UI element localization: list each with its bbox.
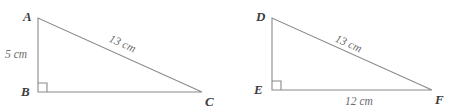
- vertex-label-f: F: [435, 93, 444, 106]
- triangle-def-outline: [272, 18, 432, 90]
- geometry-figure: A B C 5 cm 13 cm D E F 13 cm 12 cm: [0, 0, 463, 111]
- measure-leg-ab: 5 cm: [5, 49, 27, 61]
- triangle-abc-shape: [38, 18, 202, 92]
- triangles-svg: [0, 0, 463, 111]
- vertex-label-c: C: [205, 95, 214, 108]
- measure-leg-ef: 12 cm: [345, 96, 373, 108]
- right-angle-marker-e: [272, 81, 281, 90]
- vertex-label-a: A: [23, 10, 32, 23]
- triangle-abc-outline: [38, 18, 202, 92]
- triangle-def-shape: [272, 18, 432, 90]
- vertex-label-b: B: [21, 85, 30, 98]
- vertex-label-d: D: [256, 10, 265, 23]
- right-angle-marker-b: [38, 83, 47, 92]
- vertex-label-e: E: [254, 83, 263, 96]
